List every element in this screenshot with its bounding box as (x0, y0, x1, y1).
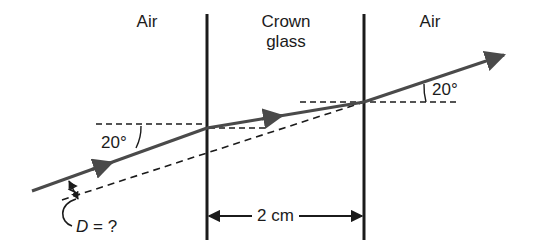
label-middle-medium-line2: glass (246, 32, 326, 52)
unknown-value: ? (108, 217, 117, 236)
incident-ray-direction-arrow-icon (92, 162, 112, 169)
label-emergence-angle: 20° (432, 80, 458, 100)
label-slab-thickness: 2 cm (252, 206, 299, 226)
refracted-ray (207, 102, 364, 128)
label-right-medium: Air (400, 12, 460, 32)
label-middle-medium-line1: Crown (246, 12, 326, 32)
label-left-medium: Air (117, 12, 177, 32)
emergence-angle-arc (424, 84, 426, 102)
label-unknown-displacement: D = ? (76, 217, 117, 237)
unknown-symbol: D (76, 217, 88, 236)
incidence-angle-arc (136, 126, 141, 148)
unknown-equals: = (88, 217, 107, 236)
refraction-diagram: Air Crown glass Air 20° 20° 2 cm D = ? (0, 0, 544, 251)
label-incidence-angle: 20° (101, 133, 127, 153)
refracted-ray-direction-arrow-icon (262, 116, 282, 119)
unknown-leader-line (63, 199, 76, 226)
